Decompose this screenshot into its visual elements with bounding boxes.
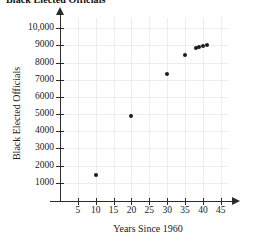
y-tick-mark: [56, 166, 64, 167]
gridline-horizontal: [60, 63, 228, 64]
x-tick-mark: [185, 198, 186, 205]
clipped-header-text: Black Elected Officials: [6, 0, 166, 4]
gridline-horizontal: [60, 114, 228, 115]
y-tick-label: 1000: [35, 178, 54, 188]
x-tick-mark: [149, 198, 150, 205]
y-tick-mark: [56, 97, 64, 98]
x-tick-mark: [167, 198, 168, 205]
x-tick-mark: [221, 198, 222, 205]
gridline-horizontal: [60, 166, 228, 167]
chart-figure: Black Elected Officials 1000200030004000…: [0, 0, 260, 241]
x-tick-mark: [96, 198, 97, 205]
x-axis-arrow-icon: [232, 197, 240, 205]
y-tick-mark: [56, 63, 64, 64]
y-tick-label: 10,000: [28, 23, 54, 33]
y-tick-label: 6000: [35, 92, 54, 102]
y-tick-mark: [56, 148, 64, 149]
y-axis-title: Black Elected Officials: [11, 44, 22, 184]
y-tick-label: 4000: [35, 126, 54, 136]
y-tick-label: 5000: [35, 109, 54, 119]
y-tick-mark: [56, 131, 64, 132]
x-tick-mark: [114, 198, 115, 205]
x-axis-title: Years Since 1960: [60, 223, 236, 234]
y-tick-mark: [56, 45, 64, 46]
y-tick-mark: [56, 183, 64, 184]
x-tick-label: 45: [209, 206, 233, 216]
gridline-horizontal: [60, 97, 228, 98]
x-tick-mark: [131, 198, 132, 205]
data-point: [205, 43, 209, 47]
y-tick-mark: [56, 80, 64, 81]
y-tick-mark: [56, 114, 64, 115]
y-tick-mark: [56, 28, 64, 29]
data-point: [94, 173, 98, 177]
y-tick-label: 2000: [35, 161, 54, 171]
gridline-horizontal: [60, 148, 228, 149]
y-tick-label: 3000: [35, 143, 54, 153]
gridline-horizontal: [60, 183, 228, 184]
y-tick-label: 9000: [35, 40, 54, 50]
gridline-horizontal: [60, 80, 228, 81]
gridline-horizontal: [60, 131, 228, 132]
x-tick-mark: [203, 198, 204, 205]
y-axis-arrow-icon: [56, 7, 64, 15]
y-tick-label: 7000: [35, 75, 54, 85]
x-tick-mark: [78, 198, 79, 205]
gridline-horizontal: [60, 28, 228, 29]
y-tick-label: 8000: [35, 58, 54, 68]
